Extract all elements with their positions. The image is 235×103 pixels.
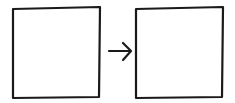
left-box [13, 7, 100, 98]
diagram-canvas [0, 0, 235, 103]
right-box [136, 7, 223, 98]
arrow-icon [109, 43, 131, 60]
